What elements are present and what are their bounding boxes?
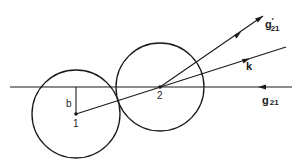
g21-arrow-icon <box>258 85 266 90</box>
label-point-1: 1 <box>73 118 79 129</box>
label-k: k <box>246 60 253 72</box>
g-prime-21-line <box>160 16 263 87</box>
k-line <box>76 47 286 114</box>
label-g-21: g21 <box>262 94 279 107</box>
label-g-prime-21: g′21 <box>265 16 280 33</box>
label-b: b <box>66 98 72 109</box>
point-1-dot <box>74 112 78 116</box>
label-point-2: 2 <box>157 90 163 101</box>
g-prime-21-arrow-icon <box>255 16 263 23</box>
collision-diagram: b 1 2 k g′21 g21 <box>0 0 302 166</box>
point-2-dot <box>158 85 162 89</box>
